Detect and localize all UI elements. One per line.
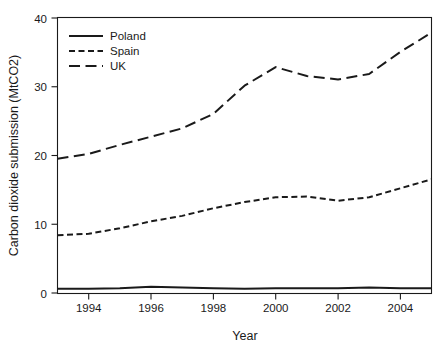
plot-frame <box>58 18 432 294</box>
legend-item-poland[interactable]: Poland <box>69 30 146 42</box>
x-tick-labels: 1994 1996 1998 2000 2002 2004 <box>76 302 414 314</box>
chart-legend: Poland Spain UK <box>69 30 146 72</box>
x-tick-label: 1996 <box>138 302 164 314</box>
x-tick-label: 2004 <box>388 302 414 314</box>
y-tick-labels: 40 30 20 10 0 <box>34 13 47 300</box>
legend-label-uk: UK <box>110 60 126 72</box>
y-tick-label: 0 <box>41 288 47 300</box>
series-line-spain <box>58 179 432 235</box>
series-line-poland <box>58 287 432 289</box>
y-tick-label: 20 <box>34 150 47 162</box>
y-tickmarks <box>52 18 58 293</box>
x-axis-title: Year <box>232 329 257 343</box>
legend-item-uk[interactable]: UK <box>69 60 126 72</box>
chart-figure: 40 30 20 10 0 1994 1996 1998 2000 2002 2… <box>0 0 442 349</box>
y-tick-label: 10 <box>34 219 47 231</box>
y-tick-label: 40 <box>34 13 47 25</box>
legend-label-spain: Spain <box>110 45 139 57</box>
x-tick-label: 2000 <box>263 302 289 314</box>
y-axis-title: Carbon dioxide submission (MtCO2) <box>7 55 21 256</box>
legend-item-spain[interactable]: Spain <box>69 45 139 57</box>
legend-label-poland: Poland <box>110 30 146 42</box>
x-tick-label: 1994 <box>76 302 102 314</box>
x-tick-label: 2002 <box>325 302 351 314</box>
line-chart-svg: 40 30 20 10 0 1994 1996 1998 2000 2002 2… <box>0 0 442 349</box>
x-tick-label: 1998 <box>201 302 227 314</box>
y-tick-label: 30 <box>34 81 47 93</box>
x-tickmarks <box>89 294 401 300</box>
